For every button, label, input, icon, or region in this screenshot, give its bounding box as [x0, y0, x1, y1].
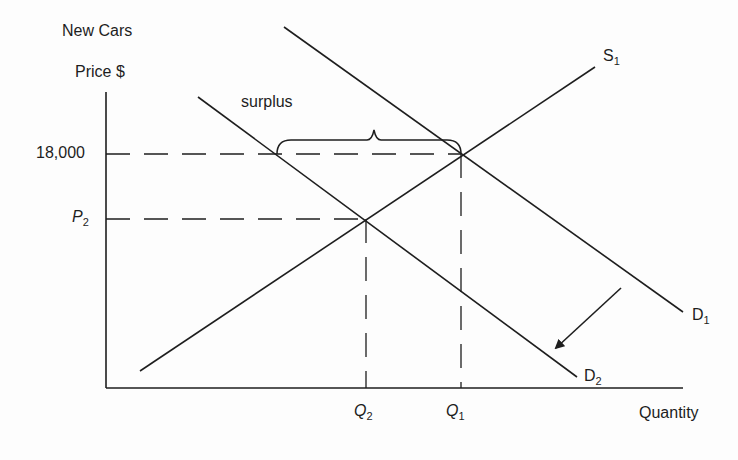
tick-18000: 18,000	[36, 144, 85, 162]
supply-curve-s1	[140, 67, 595, 371]
s1-label: S1	[603, 47, 620, 67]
demand-shift-arrow	[556, 288, 621, 348]
d2-label: D2	[584, 367, 602, 387]
demand-curve-d1	[284, 27, 683, 312]
tick-q1: Q1	[446, 402, 465, 422]
y-axis-label: Price $	[75, 63, 125, 81]
surplus-label: surplus	[241, 93, 293, 111]
tick-p2: P2	[72, 208, 89, 228]
demand-curve-d2	[198, 97, 577, 377]
tick-q2: Q2	[354, 402, 373, 422]
chart-title: New Cars	[62, 22, 132, 40]
x-axis-label: Quantity	[639, 404, 699, 422]
d1-label: D1	[692, 306, 710, 326]
